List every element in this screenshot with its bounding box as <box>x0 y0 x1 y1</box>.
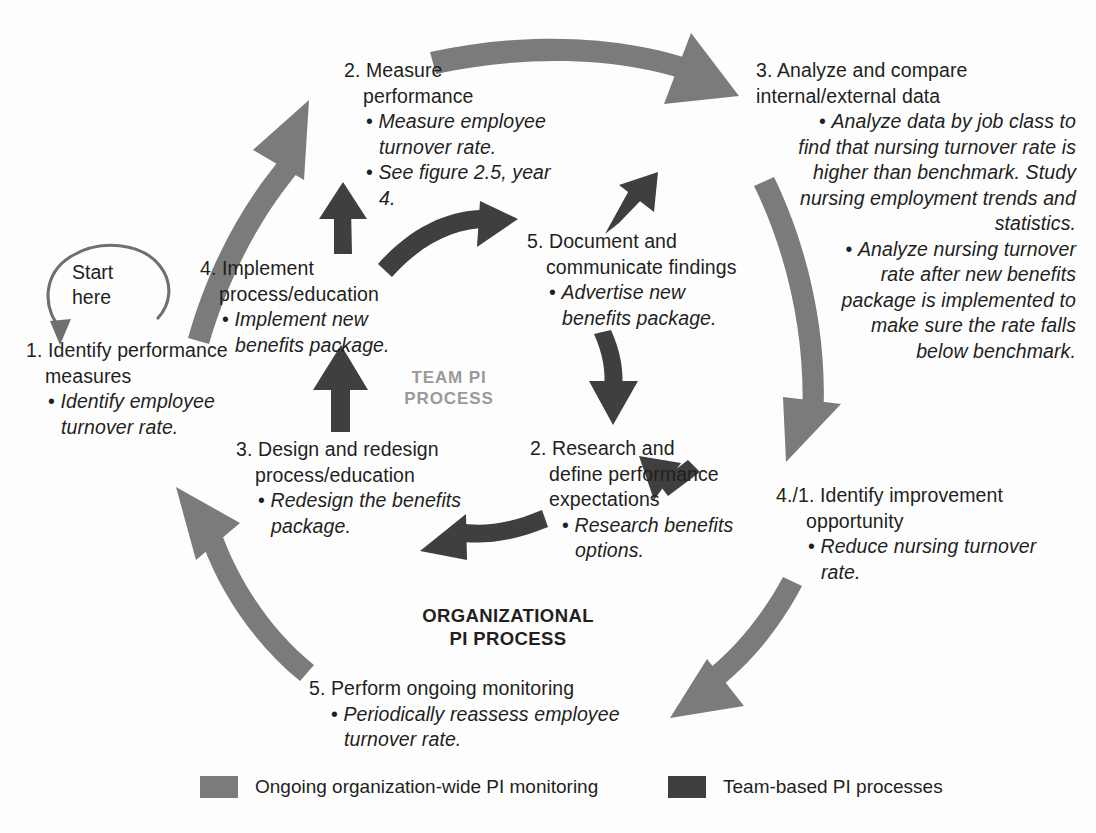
team-step-2-heading: 2. Research and <box>530 436 745 462</box>
list-item: • Research benefits options. <box>562 513 745 564</box>
legend-label-org: Ongoing organization-wide PI monitoring <box>255 776 598 798</box>
team-step-3-heading: 3. Design and redesign <box>236 437 466 463</box>
list-item: • Implement new benefits package. <box>222 307 430 358</box>
team-step-5-bullets: • Advertise new benefits package. <box>527 280 757 331</box>
org-step-2-heading2: performance <box>344 84 559 110</box>
org-pi-process-line1: ORGANIZATIONAL <box>378 604 638 627</box>
legend-swatch-org <box>200 776 238 798</box>
legend-item-org: Ongoing organization-wide PI monitoring <box>200 776 598 798</box>
org-step-4-bullets: • Reduce nursing turnover rate. <box>776 534 1076 585</box>
list-item: • See figure 2.5, year 4. <box>366 160 559 211</box>
org-step-2-bullets: • Measure employee turnover rate. • See … <box>344 109 559 211</box>
team-step-2-heading3: expectations <box>530 487 745 513</box>
list-item: • Analyze nursing turnover rate after ne… <box>808 237 1076 365</box>
list-item: • Identify employee turnover rate. <box>48 389 261 440</box>
list-item: • Periodically reassess employee turnove… <box>331 702 639 753</box>
team-step-design: 3. Design and redesign process/education… <box>236 437 466 539</box>
org-pi-process-line2: PI PROCESS <box>378 627 638 650</box>
legend-swatch-team <box>668 776 706 798</box>
team-step-4-bullets: • Implement new benefits package. <box>200 307 430 358</box>
org-step-3-heading2: internal/external data <box>756 84 1076 110</box>
figure-canvas: Start here 1. Identify performance measu… <box>0 0 1096 833</box>
team-step-implement: 4. Implement process/education • Impleme… <box>200 256 430 358</box>
legend-label-team: Team-based PI processes <box>723 776 943 798</box>
org-step-perform-ongoing-monitoring: 5. Perform ongoing monitoring • Periodic… <box>309 676 639 753</box>
team-step-5-heading: 5. Document and <box>527 229 757 255</box>
org-arrow-identify-to-monitor <box>670 577 802 718</box>
team-step-3-heading2: process/education <box>236 463 466 489</box>
list-item: • Measure employee turnover rate. <box>366 109 559 160</box>
org-step-1-heading2: measures <box>26 364 261 390</box>
team-step-4-heading2: process/education <box>200 282 430 308</box>
start-here-label: Start here <box>72 260 162 310</box>
org-step-measure-performance: 2. Measure performance • Measure employe… <box>344 58 559 211</box>
list-item: • Analyze data by job class to find that… <box>782 109 1076 237</box>
legend-item-team: Team-based PI processes <box>668 776 943 798</box>
list-item: • Reduce nursing turnover rate. <box>808 534 1076 585</box>
team-arrow-design-to-implement <box>313 345 368 432</box>
list-item: • Advertise new benefits package. <box>549 280 757 331</box>
org-step-4-heading: 4./1. Identify improvement <box>776 483 1076 509</box>
team-step-research: 2. Research and define performance expec… <box>530 436 745 564</box>
org-step-3-bullets: • Analyze data by job class to find that… <box>756 109 1076 364</box>
team-step-4-heading: 4. Implement <box>200 256 430 282</box>
team-step-2-bullets: • Research benefits options. <box>530 513 745 564</box>
list-item: • Redesign the benefits package. <box>258 488 466 539</box>
start-here-line1: Start <box>72 260 162 285</box>
org-step-5-bullets: • Periodically reassess employee turnove… <box>309 702 639 753</box>
org-step-5-heading: 5. Perform ongoing monitoring <box>309 676 639 702</box>
team-step-document: 5. Document and communicate findings • A… <box>527 229 757 331</box>
team-pi-process-line2: PROCESS <box>374 388 524 409</box>
organizational-pi-process-label: ORGANIZATIONAL PI PROCESS <box>378 604 638 650</box>
team-pi-process-label: TEAM PI PROCESS <box>374 367 524 409</box>
org-step-2-heading: 2. Measure <box>344 58 559 84</box>
org-step-identify-improvement-opportunity: 4./1. Identify improvement opportunity •… <box>776 483 1076 585</box>
org-step-3-heading: 3. Analyze and compare <box>756 58 1076 84</box>
team-arrow-document-to-measure <box>605 172 658 234</box>
team-arrow-document-to-research <box>589 330 638 425</box>
team-pi-process-line1: TEAM PI <box>374 367 524 388</box>
team-step-2-heading2: define performance <box>530 462 745 488</box>
org-step-1-bullets: • Identify employee turnover rate. <box>26 389 261 440</box>
start-here-line2: here <box>72 285 162 310</box>
org-step-4-heading2: opportunity <box>776 509 1076 535</box>
team-step-5-heading2: communicate findings <box>527 255 757 281</box>
org-step-analyze-compare: 3. Analyze and compare internal/external… <box>756 58 1076 364</box>
team-step-3-bullets: • Redesign the benefits package. <box>236 488 466 539</box>
